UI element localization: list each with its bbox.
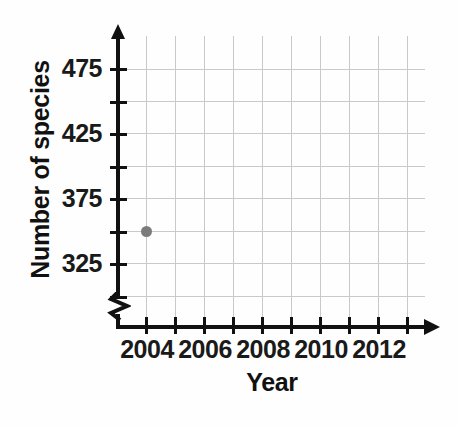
gridline-vertical [146,36,147,327]
gridline-horizontal [119,101,425,102]
x-tick-major [377,317,380,334]
gridline-vertical [407,36,408,327]
scatter-plot-figure: 475 425 375 325 2004 2006 2008 2010 2012… [0,0,458,426]
gridline-vertical [233,36,234,327]
y-tick-minor [110,166,127,169]
gridline-horizontal [119,133,425,134]
x-tick-major [145,317,148,334]
y-tick-minor [110,101,127,104]
x-axis-title: Year [119,368,425,397]
gridline-horizontal [119,69,425,70]
gridline-horizontal [119,296,425,297]
gridline-vertical [175,36,176,327]
gridline-vertical [349,36,350,327]
x-tick-minor [406,317,409,334]
y-axis-title: Number of species [26,50,55,290]
y-tick-major [110,263,127,266]
gridline-vertical [320,36,321,327]
gridline-horizontal [119,166,425,167]
x-tick-minor [232,317,235,334]
x-tick-major [203,317,206,334]
gridline-vertical [378,36,379,327]
x-axis-arrow-icon [424,319,440,335]
x-tick-minor [290,317,293,334]
gridline-vertical [204,36,205,327]
x-tick-major [319,317,322,334]
gridline-horizontal [119,198,425,199]
y-tick-minor [110,296,127,299]
gridline-vertical [291,36,292,327]
y-tick-major [110,133,127,136]
gridline-horizontal [119,263,425,264]
data-point[interactable] [141,226,152,237]
gridline-horizontal [119,231,425,232]
x-tick-minor [348,317,351,334]
y-tick-major [110,198,127,201]
gridline-vertical [262,36,263,327]
y-tick-major [110,68,127,71]
x-tick-label-2012: 2012 [339,337,419,362]
plot-area [119,36,425,327]
x-tick-major [261,317,264,334]
y-axis-arrow-icon [111,24,125,39]
x-tick-minor [174,317,177,334]
y-tick-minor [110,231,127,234]
